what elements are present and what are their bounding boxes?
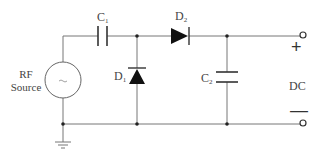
junction-node — [225, 122, 229, 126]
c2-label: C2 — [201, 72, 213, 86]
diode-d2-icon — [171, 27, 189, 45]
d2-label-sub: 2 — [184, 16, 188, 24]
output-plus-sign: + — [291, 38, 302, 56]
rf-source-label-line2: Source — [6, 81, 46, 94]
d1-label-sub: 1 — [123, 76, 127, 84]
d2-label: D2 — [175, 10, 187, 24]
output-terminal-negative — [300, 120, 306, 126]
output-minus-sign: — — [290, 101, 308, 119]
ground-icon — [55, 142, 71, 148]
c1-label-sub: 1 — [105, 17, 109, 25]
wire-source-to-c1 — [63, 36, 98, 62]
d2-label-name: D — [175, 9, 184, 23]
c2-label-sub: 2 — [209, 78, 213, 86]
d1-label-name: D — [114, 69, 123, 83]
rf-source-label-line1: RF — [6, 68, 46, 81]
capacitor-c2-icon — [216, 72, 238, 82]
rf-source-icon — [45, 62, 81, 98]
c1-label-name: C — [97, 10, 105, 24]
junction-node — [61, 122, 65, 126]
c2-label-name: C — [201, 71, 209, 85]
output-dc-label: DC — [289, 80, 306, 92]
circuit-schematic — [0, 0, 318, 160]
capacitor-c1-icon — [98, 26, 107, 46]
rf-source-label: RF Source — [6, 68, 46, 94]
c1-label: C1 — [97, 11, 109, 25]
junction-node — [135, 34, 139, 38]
d1-label: D1 — [114, 70, 126, 84]
junction-node — [135, 122, 139, 126]
junction-node — [225, 34, 229, 38]
diode-d1-icon — [128, 68, 146, 84]
rectifier-circuit-diagram: RF Source C1 D1 D2 C2 + DC — — [0, 0, 318, 160]
